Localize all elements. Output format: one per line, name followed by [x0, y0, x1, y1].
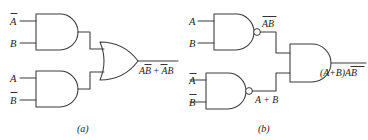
circuit-b-nand-gate-bottom	[190, 73, 252, 109]
circuit-b-input-label-3: A	[188, 75, 196, 86]
or-gate-shape	[100, 42, 138, 80]
nand-gate-shape	[214, 14, 254, 50]
circuit-a-and-gate-bottom	[20, 71, 78, 107]
circuit-a-group	[11, 14, 179, 108]
logic-circuit-figure: A B A B AB+AB A B A B AB A + B (A+B)AB (…	[0, 0, 368, 140]
circuit-b-input-label-4: B	[189, 97, 196, 108]
expr-b-second: AB	[344, 67, 357, 78]
expr-a-plus: +	[153, 65, 159, 76]
expr-b-group: (A+B)	[320, 67, 345, 79]
caption-b: (b)	[258, 123, 270, 135]
circuit-b-top-nand-output-label: AB	[261, 18, 274, 29]
wire-bottom-nand-to-and	[253, 73, 291, 91]
and-gate-shape	[36, 71, 78, 107]
and-gate-shape	[36, 14, 78, 50]
circuit-a-input-label-3: A	[9, 73, 17, 84]
circuit-a-wires	[78, 32, 178, 89]
wire-top-nand-to-and	[261, 32, 291, 53]
expr-a-t2b: B	[167, 65, 173, 76]
circuit-b-input-label-2: B	[189, 38, 196, 49]
circuit-a-input-label-4: B	[10, 95, 17, 106]
expr-a-t1b: B	[145, 65, 151, 76]
caption-a: (a)	[77, 123, 89, 135]
inverter-bubble-icon	[246, 88, 253, 95]
inverter-bubble-icon	[254, 29, 261, 36]
circuit-a-output-expression: AB+AB	[138, 65, 173, 76]
circuit-b-nand-gate-top	[198, 14, 260, 50]
circuit-a-input-label-2: B	[10, 38, 17, 49]
circuit-a-input-label-1: A	[9, 16, 17, 27]
circuit-a-or-gate	[100, 42, 138, 80]
circuit-a-and-gate-top	[20, 14, 78, 50]
nand-gate-shape	[206, 73, 246, 109]
circuit-b-output-expression: (A+B)AB	[320, 67, 357, 79]
circuit-canvas: A B A B AB+AB A B A B AB A + B (A+B)AB (…	[0, 0, 368, 140]
wire-top-and-to-or	[78, 32, 104, 49]
circuit-b-input-label-1: A	[188, 16, 196, 27]
circuit-b-bottom-nand-output-label: A + B	[254, 94, 278, 105]
